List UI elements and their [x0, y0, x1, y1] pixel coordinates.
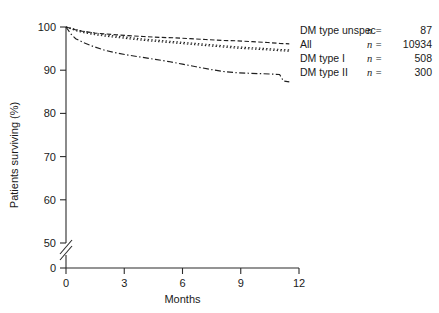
- legend-value-3: 300: [414, 66, 432, 78]
- curve-dm-type-unspec: [66, 27, 289, 44]
- survival-chart: 100 90 80 70 60 50 0 0 3 6 9 12 Months P…: [0, 0, 439, 313]
- x-tick-label-6: 6: [179, 277, 185, 289]
- y-tick-label-70: 70: [44, 151, 56, 163]
- x-tick-label-9: 9: [238, 277, 244, 289]
- legend-value-2: 508: [414, 52, 432, 64]
- x-tick-label-0: 0: [63, 277, 69, 289]
- x-tick-label-3: 3: [121, 277, 127, 289]
- legend-value-1: 10934: [403, 38, 432, 50]
- chart-svg: 100 90 80 70 60 50 0 0 3 6 9 12 Months P…: [0, 0, 439, 313]
- y-tick-label-90: 90: [44, 64, 56, 76]
- legend-n-1: n =: [367, 39, 382, 50]
- y-tick-label-60: 60: [44, 194, 56, 206]
- legend-value-0: 87: [420, 24, 432, 36]
- legend-n-0: n =: [367, 25, 382, 36]
- x-tick-label-12: 12: [293, 277, 305, 289]
- legend-label-0: DM type unspec: [300, 24, 376, 36]
- x-tick-marks: [66, 268, 299, 274]
- y-axis-title: Patients surviving (%): [8, 102, 20, 208]
- curve-dm-type-ii: [66, 27, 289, 82]
- y-tick-label-80: 80: [44, 107, 56, 119]
- x-axis-title: Months: [164, 293, 201, 305]
- legend: DM type unspec n = 87 All n = 10934 DM t…: [300, 24, 432, 78]
- y-tick-marks: [60, 27, 66, 268]
- legend-n-3: n =: [367, 67, 382, 78]
- y-tick-label-50: 50: [44, 237, 56, 249]
- legend-label-2: DM type I: [300, 52, 345, 64]
- legend-n-2: n =: [367, 53, 382, 64]
- y-tick-label-0: 0: [50, 262, 56, 274]
- legend-label-3: DM type II: [300, 66, 348, 78]
- legend-label-1: All: [300, 38, 312, 50]
- y-tick-label-100: 100: [38, 21, 56, 33]
- curves-group: [66, 27, 289, 82]
